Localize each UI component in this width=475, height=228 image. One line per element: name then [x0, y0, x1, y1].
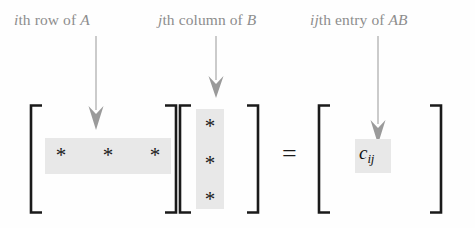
matrix-b-entry: * — [201, 116, 219, 137]
label-col-text: th column of — [162, 11, 246, 28]
matrix-a-entry: * — [99, 145, 117, 166]
product-matrix-right-bracket — [430, 103, 444, 215]
equals-sign: = — [282, 141, 297, 167]
arrow-to-column-highlight — [205, 36, 227, 98]
label-ith-row-of-a: ith row of A — [14, 12, 90, 28]
matrix-b-right-bracket — [247, 103, 261, 215]
label-row-text: th row of — [18, 11, 80, 28]
matrix-a-entry: * — [52, 145, 70, 166]
matrix-b-left-bracket — [177, 103, 191, 215]
entry-subscript: ij — [367, 151, 374, 166]
matrix-b-entry: * — [201, 189, 219, 210]
label-row-matrix: A — [80, 11, 90, 28]
label-entry-text: th entry of — [319, 11, 389, 28]
matrix-a-entry: * — [146, 145, 164, 166]
product-entry-cij: cij — [359, 143, 374, 162]
matrix-multiplication-figure: ith row of A jth column of B ijth entry … — [0, 0, 475, 228]
label-entry-variable: ij — [310, 11, 319, 28]
matrix-equation: * * * * * * = — [0, 103, 475, 215]
label-col-matrix: B — [247, 11, 257, 28]
label-jth-column-of-b: jth column of B — [158, 12, 256, 28]
product-matrix-left-bracket — [316, 103, 330, 215]
matrix-b-entry: * — [201, 153, 219, 174]
label-entry-matrix: AB — [388, 11, 407, 28]
label-ijth-entry-of-ab: ijth entry of AB — [310, 12, 408, 28]
matrix-a-left-bracket — [28, 103, 42, 215]
